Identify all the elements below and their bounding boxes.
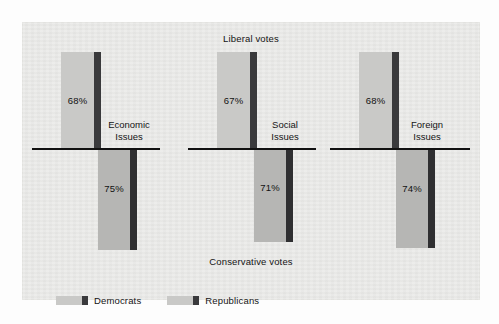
zero-axis-line-social [188, 148, 316, 150]
group-label-foreign: Foreign Issues [396, 119, 458, 142]
bar-foreign-conservative-republicans[interactable] [428, 150, 435, 248]
group-label-economic-line2: Issues [98, 131, 160, 143]
legend-item-republicans[interactable]: Republicans [167, 295, 259, 306]
group-social: 67% 71% Social Issues [188, 22, 316, 300]
chart-figure: Liberal votes Conservative votes 68% 75% [0, 0, 499, 324]
legend-swatch-dark-democrats [82, 296, 88, 305]
bar-social-conservative-republicans[interactable] [286, 150, 293, 242]
legend-item-democrats[interactable]: Democrats [56, 295, 141, 306]
bar-economic-conservative[interactable]: 75% [98, 150, 137, 250]
zero-axis-line-economic [32, 148, 160, 150]
legend-swatch-light-republicans [167, 296, 193, 305]
group-economic: 68% 75% Economic Issues [32, 22, 160, 300]
legend-swatch-light-democrats [56, 296, 82, 305]
legend-label-democrats: Democrats [94, 295, 141, 306]
bar-economic-liberal-democrats[interactable]: 68% [61, 52, 94, 148]
bar-foreign-liberal[interactable]: 68% [359, 52, 399, 148]
bar-economic-liberal[interactable]: 68% [61, 52, 101, 148]
bar-social-liberal[interactable]: 67% [217, 52, 257, 148]
bar-foreign-liberal-democrats[interactable]: 68% [359, 52, 392, 148]
group-label-economic: Economic Issues [98, 119, 160, 142]
bar-economic-conservative-republicans[interactable] [130, 150, 137, 250]
bar-label-foreign-liberal: 68% [359, 95, 392, 106]
group-foreign: 68% 74% Foreign Issues [330, 22, 470, 300]
group-label-social-line2: Issues [254, 131, 316, 143]
bar-social-conservative[interactable]: 71% [254, 150, 293, 242]
bar-foreign-conservative-democrats[interactable]: 74% [396, 150, 428, 248]
bar-economic-conservative-democrats[interactable]: 75% [98, 150, 130, 250]
bar-foreign-conservative[interactable]: 74% [396, 150, 435, 248]
chart-legend: Democrats Republicans [56, 295, 259, 306]
bar-label-social-liberal: 67% [217, 95, 250, 106]
legend-swatch-republicans [167, 296, 199, 305]
group-label-economic-line1: Economic [98, 119, 160, 131]
group-label-foreign-line2: Issues [396, 131, 458, 143]
group-label-social-line1: Social [254, 119, 316, 131]
group-label-foreign-line1: Foreign [396, 119, 458, 131]
legend-swatch-dark-republicans [193, 296, 199, 305]
group-label-social: Social Issues [254, 119, 316, 142]
bar-label-economic-conservative: 75% [98, 183, 130, 194]
bar-social-liberal-democrats[interactable]: 67% [217, 52, 250, 148]
bar-label-social-conservative: 71% [254, 182, 286, 193]
legend-swatch-democrats [56, 296, 88, 305]
legend-label-republicans: Republicans [205, 295, 259, 306]
bar-label-foreign-conservative: 74% [396, 183, 428, 194]
bar-label-economic-liberal: 68% [61, 95, 94, 106]
bar-social-conservative-democrats[interactable]: 71% [254, 150, 286, 242]
chart-panel: Liberal votes Conservative votes 68% 75% [22, 22, 480, 300]
